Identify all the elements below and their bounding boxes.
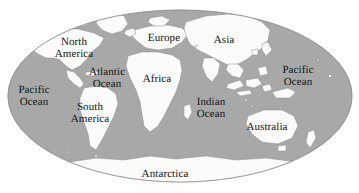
landmass-tasmania — [278, 145, 286, 151]
landmass-antarctica — [8, 156, 352, 184]
landmass-pacific-island-3 — [67, 151, 69, 153]
landmass-arctic-island-small — [38, 20, 54, 28]
world-map-figure: North America Europe Asia Pacific Ocean … — [0, 0, 359, 193]
landmass-philippines — [258, 66, 268, 76]
landmass-pacific-island-1 — [328, 74, 331, 77]
world-map-graphic — [0, 0, 359, 193]
landmass-indian-island-1 — [245, 99, 247, 101]
landmass-atlantic-island-1 — [195, 45, 198, 48]
landmass-pacific-island-4 — [95, 155, 98, 158]
landmass-pacific-island-2 — [317, 59, 319, 61]
landmass-indian-island-2 — [251, 105, 253, 107]
landmass-korea — [252, 49, 258, 55]
